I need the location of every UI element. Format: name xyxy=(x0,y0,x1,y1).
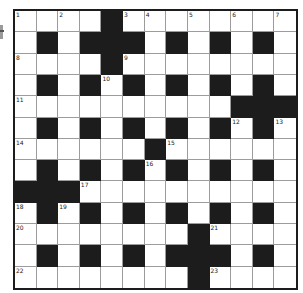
answer-cell[interactable] xyxy=(188,181,210,202)
answer-cell[interactable] xyxy=(274,54,296,75)
answer-cell[interactable]: 8 xyxy=(15,54,37,75)
answer-cell[interactable] xyxy=(166,54,188,75)
answer-cell[interactable] xyxy=(15,75,37,96)
answer-cell[interactable] xyxy=(58,32,80,53)
answer-cell[interactable] xyxy=(101,181,123,202)
answer-cell[interactable] xyxy=(274,203,296,224)
answer-cell[interactable] xyxy=(101,224,123,245)
answer-cell[interactable]: 12 xyxy=(231,118,253,139)
answer-cell[interactable] xyxy=(58,96,80,117)
answer-cell[interactable] xyxy=(231,224,253,245)
answer-cell[interactable] xyxy=(231,267,253,288)
answer-cell[interactable]: 7 xyxy=(274,11,296,32)
answer-cell[interactable] xyxy=(145,32,167,53)
answer-cell[interactable]: 4 xyxy=(145,11,167,32)
answer-cell[interactable] xyxy=(58,139,80,160)
answer-cell[interactable] xyxy=(145,181,167,202)
answer-cell[interactable] xyxy=(188,75,210,96)
answer-cell[interactable]: 10 xyxy=(101,75,123,96)
answer-cell[interactable] xyxy=(274,75,296,96)
answer-cell[interactable] xyxy=(188,203,210,224)
answer-cell[interactable] xyxy=(210,139,232,160)
answer-cell[interactable] xyxy=(231,203,253,224)
answer-cell[interactable] xyxy=(58,267,80,288)
answer-cell[interactable] xyxy=(253,267,275,288)
answer-cell[interactable] xyxy=(37,11,59,32)
answer-cell[interactable] xyxy=(145,75,167,96)
answer-cell[interactable]: 19 xyxy=(58,203,80,224)
answer-cell[interactable] xyxy=(58,54,80,75)
answer-cell[interactable] xyxy=(80,11,102,32)
answer-cell[interactable] xyxy=(166,267,188,288)
answer-cell[interactable] xyxy=(58,224,80,245)
answer-cell[interactable]: 17 xyxy=(80,181,102,202)
answer-cell[interactable]: 1 xyxy=(15,11,37,32)
answer-cell[interactable]: 22 xyxy=(15,267,37,288)
answer-cell[interactable] xyxy=(231,160,253,181)
answer-cell[interactable] xyxy=(274,267,296,288)
answer-cell[interactable] xyxy=(274,181,296,202)
answer-cell[interactable] xyxy=(253,139,275,160)
answer-cell[interactable] xyxy=(274,160,296,181)
answer-cell[interactable] xyxy=(37,139,59,160)
answer-cell[interactable] xyxy=(253,11,275,32)
answer-cell[interactable] xyxy=(145,245,167,266)
answer-cell[interactable]: 23 xyxy=(210,267,232,288)
answer-cell[interactable] xyxy=(210,11,232,32)
answer-cell[interactable] xyxy=(188,118,210,139)
answer-cell[interactable] xyxy=(210,181,232,202)
answer-cell[interactable] xyxy=(253,54,275,75)
answer-cell[interactable] xyxy=(145,203,167,224)
answer-cell[interactable]: 20 xyxy=(15,224,37,245)
answer-cell[interactable] xyxy=(166,181,188,202)
answer-cell[interactable] xyxy=(274,139,296,160)
answer-cell[interactable] xyxy=(15,160,37,181)
answer-cell[interactable] xyxy=(188,96,210,117)
answer-cell[interactable] xyxy=(101,160,123,181)
answer-cell[interactable] xyxy=(101,139,123,160)
answer-cell[interactable] xyxy=(37,224,59,245)
answer-cell[interactable] xyxy=(123,139,145,160)
answer-cell[interactable] xyxy=(37,54,59,75)
answer-cell[interactable] xyxy=(274,224,296,245)
answer-cell[interactable] xyxy=(231,139,253,160)
answer-cell[interactable] xyxy=(188,139,210,160)
answer-cell[interactable] xyxy=(145,267,167,288)
answer-cell[interactable] xyxy=(101,96,123,117)
answer-cell[interactable] xyxy=(58,245,80,266)
answer-cell[interactable]: 13 xyxy=(274,118,296,139)
answer-cell[interactable] xyxy=(210,54,232,75)
answer-cell[interactable] xyxy=(15,245,37,266)
answer-cell[interactable] xyxy=(231,245,253,266)
answer-cell[interactable] xyxy=(231,75,253,96)
answer-cell[interactable] xyxy=(123,224,145,245)
answer-cell[interactable] xyxy=(166,224,188,245)
answer-cell[interactable] xyxy=(145,54,167,75)
answer-cell[interactable]: 14 xyxy=(15,139,37,160)
answer-cell[interactable] xyxy=(145,224,167,245)
answer-cell[interactable] xyxy=(101,118,123,139)
answer-cell[interactable] xyxy=(166,11,188,32)
answer-cell[interactable] xyxy=(80,139,102,160)
answer-cell[interactable] xyxy=(253,224,275,245)
answer-cell[interactable] xyxy=(58,160,80,181)
answer-cell[interactable] xyxy=(80,96,102,117)
answer-cell[interactable] xyxy=(231,181,253,202)
answer-cell[interactable]: 11 xyxy=(15,96,37,117)
answer-cell[interactable] xyxy=(37,267,59,288)
answer-cell[interactable] xyxy=(101,267,123,288)
answer-cell[interactable] xyxy=(188,160,210,181)
answer-cell[interactable]: 15 xyxy=(166,139,188,160)
answer-cell[interactable]: 21 xyxy=(210,224,232,245)
answer-cell[interactable] xyxy=(15,32,37,53)
answer-cell[interactable]: 2 xyxy=(58,11,80,32)
answer-cell[interactable] xyxy=(80,54,102,75)
answer-cell[interactable]: 3 xyxy=(123,11,145,32)
answer-cell[interactable]: 9 xyxy=(123,54,145,75)
answer-cell[interactable] xyxy=(231,32,253,53)
answer-cell[interactable] xyxy=(188,54,210,75)
answer-cell[interactable]: 5 xyxy=(188,11,210,32)
answer-cell[interactable] xyxy=(58,75,80,96)
answer-cell[interactable] xyxy=(253,181,275,202)
answer-cell[interactable]: 16 xyxy=(145,160,167,181)
